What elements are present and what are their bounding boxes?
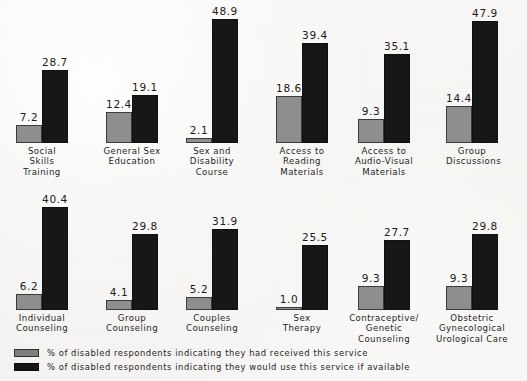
bar-pair: 7.228.7 <box>16 70 68 143</box>
category-label: GroupCounseling <box>89 313 175 334</box>
bar-received: 2.1 <box>186 138 212 143</box>
bar-pair: 6.240.4 <box>16 207 68 310</box>
category-label-line: Counseling <box>0 323 85 333</box>
bar-value-label: 18.6 <box>276 82 302 94</box>
bar-value-label: 31.9 <box>212 215 238 227</box>
legend-item-would-use: % of disabled respondents indicating the… <box>14 361 514 372</box>
category-label-line: Group <box>446 146 498 156</box>
category-label: Access toAudio-VisualMaterials <box>341 146 427 177</box>
category-label-line: Materials <box>341 167 427 177</box>
category-label: SocialSkillsTraining <box>16 146 68 177</box>
bar-group: 9.327.7Contraceptive/GeneticCounseling <box>358 309 410 310</box>
bar-pair: 14.447.9 <box>446 21 498 143</box>
bar-value-label: 4.1 <box>110 286 129 298</box>
bar-value-label: 29.8 <box>132 220 158 232</box>
bar-group: 1.025.5SexTherapy <box>276 309 328 310</box>
category-label-line: Discussions <box>446 156 498 166</box>
category-label: GroupDiscussions <box>446 146 498 167</box>
bar-value-label: 35.1 <box>384 40 410 52</box>
bar-received: 4.1 <box>106 300 132 310</box>
bar-would-use: 29.8 <box>132 234 158 310</box>
chart-row-top: 7.228.7SocialSkillsTraining12.419.1Gener… <box>0 0 527 189</box>
bar-value-label: 5.2 <box>190 283 209 295</box>
bar-value-label: 19.1 <box>132 81 158 93</box>
category-label-line: Audio-Visual <box>341 156 427 166</box>
category-label-line: Skills <box>16 156 68 166</box>
bar-pair: 1.025.5 <box>276 245 328 310</box>
category-label-line: Individual <box>0 313 85 323</box>
bar-would-use: 40.4 <box>42 207 68 310</box>
category-label: SexTherapy <box>276 313 328 334</box>
bar-value-label: 1.0 <box>280 293 299 305</box>
category-label-line: Social <box>16 146 68 156</box>
bar-would-use: 48.9 <box>212 19 238 143</box>
category-label: Access toReadingMaterials <box>259 146 345 177</box>
category-label-line: Disability <box>186 156 238 166</box>
category-label-line: Group <box>89 313 175 323</box>
category-label-line: Materials <box>259 167 345 177</box>
category-label: General SexEducation <box>89 146 175 167</box>
category-label: CouplesCounseling <box>169 313 255 334</box>
bar-pair: 9.327.7 <box>358 240 410 310</box>
bar-group: 9.329.8ObstetricGynecologicalUrological … <box>446 309 498 310</box>
bar-value-label: 40.4 <box>42 193 68 205</box>
bar-pair: 5.231.9 <box>186 229 238 310</box>
bar-received: 5.2 <box>186 297 212 310</box>
bar-received: 18.6 <box>276 96 302 143</box>
category-label-line: Obstetric <box>429 313 515 323</box>
category-label-line: Sex and <box>186 146 238 156</box>
category-label-line: Access to <box>259 146 345 156</box>
legend-swatch-received-icon <box>14 349 39 357</box>
bar-value-label: 29.8 <box>472 220 498 232</box>
bar-received: 6.2 <box>16 294 42 310</box>
bar-received: 12.4 <box>106 112 132 143</box>
bar-pair: 4.129.8 <box>106 234 158 310</box>
bar-value-label: 6.2 <box>20 280 39 292</box>
category-label-line: Training <box>16 167 68 177</box>
category-label: IndividualCounseling <box>0 313 85 334</box>
category-label: ObstetricGynecologicalUrological Care <box>429 313 515 344</box>
category-label-line: Reading <box>259 156 345 166</box>
category-label: Contraceptive/GeneticCounseling <box>341 313 427 344</box>
bar-would-use: 25.5 <box>302 245 328 310</box>
category-label-line: Course <box>186 167 238 177</box>
bar-group: 12.419.1General SexEducation <box>106 142 158 143</box>
bar-value-label: 2.1 <box>190 124 209 136</box>
bar-received: 9.3 <box>446 286 472 310</box>
category-label-line: Couples <box>169 313 255 323</box>
bar-value-label: 12.4 <box>106 98 132 110</box>
bar-received: 9.3 <box>358 119 384 143</box>
legend-label-would-use: % of disabled respondents indicating the… <box>47 362 410 372</box>
category-label-line: General Sex <box>89 146 175 156</box>
bar-group: 2.148.9Sex andDisabilityCourse <box>186 142 238 143</box>
bar-group: 7.228.7SocialSkillsTraining <box>16 142 68 143</box>
bar-pair: 12.419.1 <box>106 95 158 144</box>
bar-value-label: 9.3 <box>362 105 381 117</box>
category-label-line: Access to <box>341 146 427 156</box>
bar-would-use: 27.7 <box>384 240 410 310</box>
bar-value-label: 27.7 <box>384 226 410 238</box>
bar-group: 5.231.9CouplesCounseling <box>186 309 238 310</box>
bar-received: 1.0 <box>276 307 302 310</box>
bar-would-use: 35.1 <box>384 54 410 143</box>
category-label-line: Therapy <box>276 323 328 333</box>
bar-pair: 9.335.1 <box>358 54 410 143</box>
bar-received: 9.3 <box>358 286 384 310</box>
bar-value-label: 48.9 <box>212 5 238 17</box>
category-label-line: Counseling <box>89 323 175 333</box>
bar-value-label: 28.7 <box>42 56 68 68</box>
bar-would-use: 19.1 <box>132 95 158 144</box>
category-label-line: Counseling <box>169 323 255 333</box>
bar-would-use: 28.7 <box>42 70 68 143</box>
category-label-line: Education <box>89 156 175 166</box>
bar-pair: 9.329.8 <box>446 234 498 310</box>
category-label-line: Urological Care <box>429 334 515 344</box>
legend-swatch-would-use-icon <box>14 363 39 371</box>
category-label-line: Sex <box>276 313 328 323</box>
bar-value-label: 39.4 <box>302 29 328 41</box>
bar-would-use: 47.9 <box>472 21 498 143</box>
bar-group: 18.639.4Access toReadingMaterials <box>276 142 328 143</box>
legend-item-received: % of disabled respondents indicating the… <box>14 347 514 358</box>
bar-value-label: 14.4 <box>446 92 472 104</box>
category-label-line: Gynecological <box>429 323 515 333</box>
